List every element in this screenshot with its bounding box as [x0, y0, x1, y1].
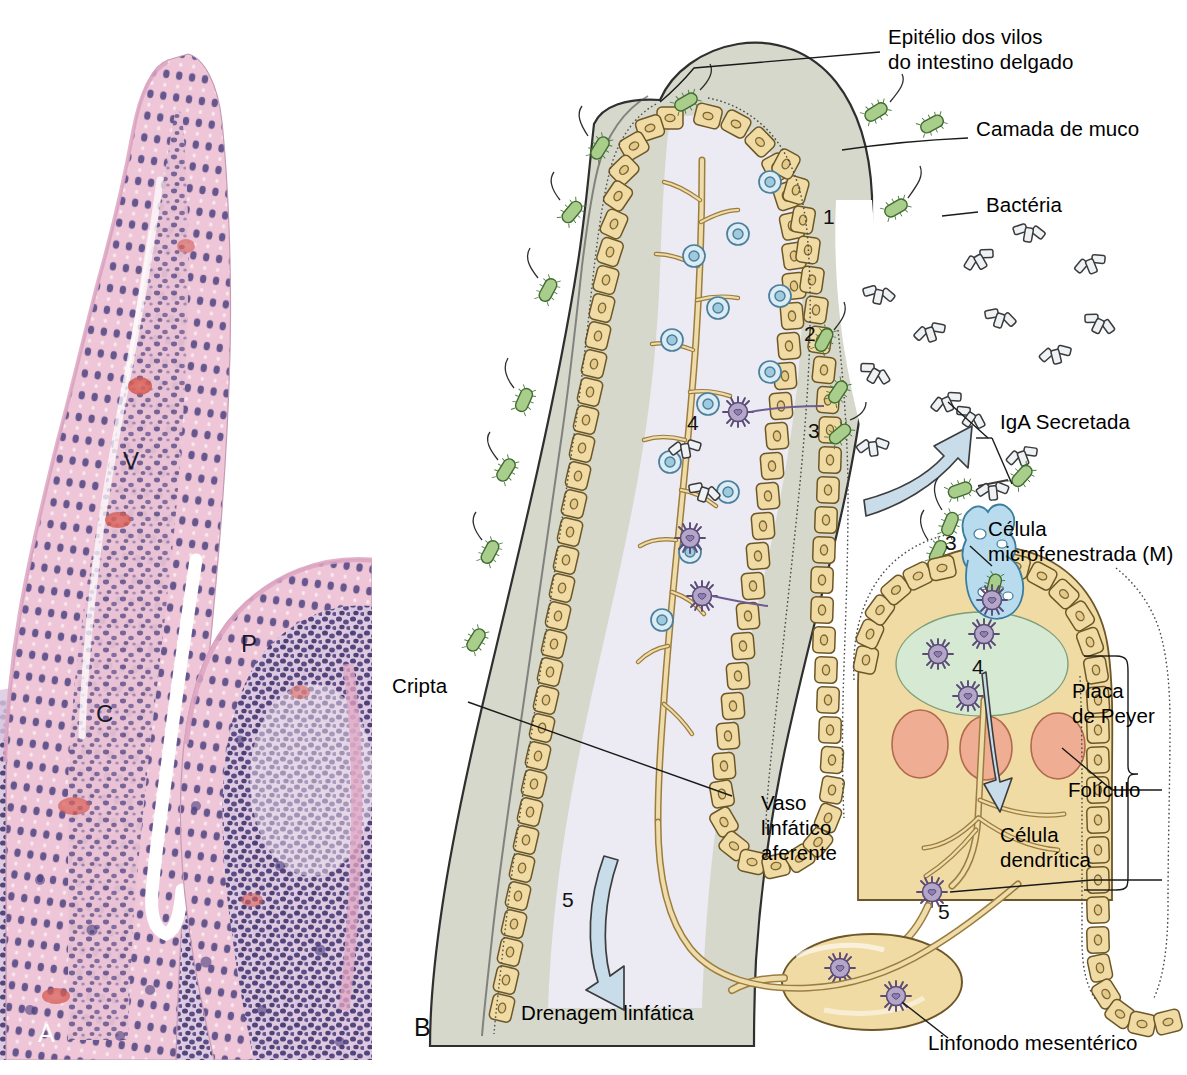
label-m-cell: Célula microfenestrada (M) [988, 516, 1173, 566]
micrograph-label-villus: V [123, 447, 139, 475]
step-number-3-mucus: 3 [808, 419, 820, 443]
label-villus-epithelium: Epitélio dos vilos do intestino delgado [888, 24, 1074, 74]
step-number-4-dome: 4 [972, 655, 984, 679]
label-mesenteric-lymph-node: Linfonodo mesentérico [928, 1030, 1138, 1055]
label-secreted-iga: IgA Secretada [1000, 409, 1130, 434]
panel-a-letter: A [38, 1019, 55, 1048]
step-number-3-mcell: 3 [945, 531, 957, 555]
label-afferent-lymphatic-vessel: Vaso linfático aferente [761, 790, 837, 865]
label-dendritic-cell: Célula dendrítica [1000, 822, 1091, 872]
step-number-5-node: 5 [938, 900, 950, 924]
micrograph-label-peyer-patch: P [241, 630, 257, 658]
label-mucus-layer: Camada de muco [976, 116, 1139, 141]
step-number-2: 2 [804, 322, 816, 346]
label-peyers-patch: Placa de Peyer [1072, 678, 1155, 728]
step-number-4-villus: 4 [687, 411, 699, 435]
panel-b-letter: B [414, 1013, 431, 1042]
step-number-5-lymph: 5 [562, 888, 574, 912]
step-number-1: 1 [823, 205, 835, 229]
label-crypt: Cripta [392, 673, 447, 698]
panel-b-diagram: Epitélio dos vilos do intestino delgado … [372, 0, 1187, 1075]
figure-root: V P C A [0, 0, 1187, 1075]
label-follicle: Folículo [1068, 777, 1141, 802]
micrograph-label-crypt: C [96, 700, 113, 728]
label-bacteria: Bactéria [986, 192, 1062, 217]
follicle-1 [892, 710, 948, 778]
panel-a-micrograph: V P C A [0, 0, 372, 1075]
label-lymphatic-drainage: Drenagem linfática [521, 1000, 694, 1025]
